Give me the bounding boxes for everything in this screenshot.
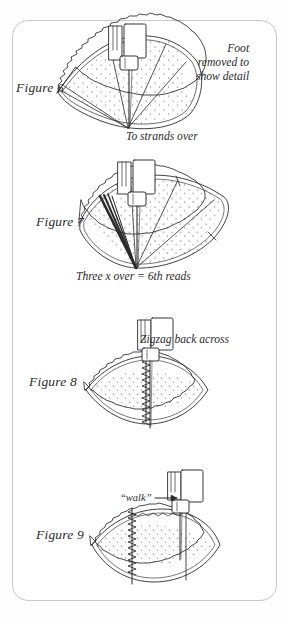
note-foot-line-2: removed to [196,56,249,70]
note-zigzag-back-across: Zigzag back across [140,333,229,347]
note-to-strands-over: To strands over [126,130,198,144]
note-foot-line-3: show detail [196,70,249,84]
note-walk: “walk” [120,492,152,505]
figure-8-label: Figure 8 [29,374,77,390]
figure-6-label: Figure 6 [16,80,64,96]
note-foot-line-1: Foot [196,42,249,56]
page-frame [12,20,277,601]
figure-9-label: Figure 9 [36,527,84,543]
note-three-x-over: Three x over = 6th reads [76,270,191,284]
illustration-page: Figure 6 Figure 7 Figure 8 Figure 9 Foot… [0,0,290,623]
note-foot-removed: Foot removed to show detail [196,42,249,84]
figure-7-label: Figure 7 [36,214,84,230]
